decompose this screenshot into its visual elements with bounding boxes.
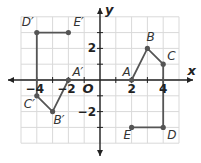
vertex-label: B′ (54, 113, 65, 127)
vertex-point (161, 125, 166, 130)
vertex-label: D′ (22, 15, 34, 29)
vertex-label: D (167, 128, 176, 142)
vertex-point (161, 62, 166, 67)
vertex-label: C′ (24, 97, 35, 111)
vertex-label: B (146, 30, 154, 44)
vertex-label: A′ (71, 65, 83, 79)
x-axis-arrow-left-icon (8, 77, 14, 83)
y-axis-arrow-down-icon (97, 150, 103, 156)
vertex-point (66, 30, 71, 35)
vertex-label: A (122, 65, 131, 79)
y-tick-label: −2 (78, 105, 96, 119)
origin-label: O (82, 81, 93, 96)
y-tick-label: 2 (88, 41, 96, 55)
vertex-point (145, 46, 150, 51)
x-tick-label: −2 (57, 82, 75, 96)
x-axis-label: x (187, 63, 197, 78)
y-axis-arrow-up-icon (97, 8, 103, 14)
x-tick-label: −4 (26, 82, 44, 96)
vertex-label: E′ (73, 15, 84, 29)
coordinate-plane: xyO−4−2242−2ABCDEA′B′C′D′E′ (0, 0, 201, 163)
y-axis-label: y (105, 2, 114, 17)
x-tick-label: 2 (127, 82, 135, 96)
vertex-point (34, 30, 39, 35)
x-tick-label: 4 (159, 82, 167, 96)
graph-svg: xyO−4−2242−2ABCDEA′B′C′D′E′ (0, 0, 201, 163)
vertex-label: C (167, 49, 176, 63)
labels: xyO−4−2242−2ABCDEA′B′C′D′E′ (22, 2, 197, 142)
vertex-label: E (124, 128, 132, 142)
